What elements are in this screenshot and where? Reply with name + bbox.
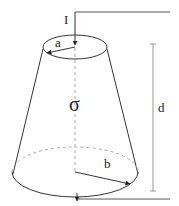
diagram-canvas: I a σ b d bbox=[0, 0, 179, 206]
bottom-face-front bbox=[12, 172, 138, 197]
conductivity-label: σ bbox=[69, 93, 80, 115]
bottom-wire bbox=[77, 193, 170, 201]
radius-b-arrow bbox=[75, 172, 130, 184]
bottom-radius-label: b bbox=[104, 156, 111, 171]
top-wire bbox=[75, 12, 170, 45]
height-label: d bbox=[158, 100, 165, 115]
current-label: I bbox=[64, 12, 68, 27]
cone-diagram: I a σ b d bbox=[0, 0, 179, 206]
top-radius-label: a bbox=[55, 35, 61, 50]
height-dimension bbox=[150, 44, 156, 191]
radius-a-arrow bbox=[47, 47, 75, 53]
